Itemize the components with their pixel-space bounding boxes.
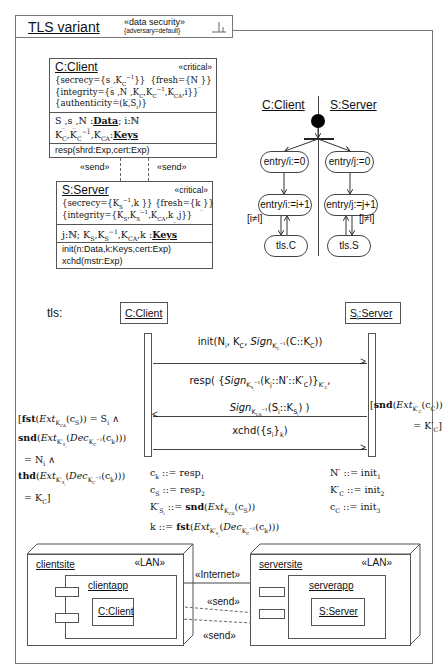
- client-object: C:Client: [92, 598, 134, 626]
- server-node-stereotype: «LAN»: [361, 557, 392, 568]
- component-port: [259, 609, 285, 619]
- server-node-name: serversite: [259, 559, 302, 570]
- client-node-stereotype: «LAN»: [134, 557, 165, 568]
- clientapp-component: clientapp C:Client: [65, 575, 177, 639]
- component-port: [55, 587, 79, 597]
- server-node: serversite «LAN» serverapp S:Server: [250, 554, 411, 646]
- internet-link-label: «Internet»: [195, 569, 240, 580]
- client-node: clientsite «LAN» clientapp C:Client: [27, 554, 184, 646]
- clientapp-name: clientapp: [88, 580, 128, 591]
- component-port: [259, 587, 285, 597]
- deployment-send-label-bottom: «send»: [203, 630, 236, 641]
- client-node-name: clientsite: [36, 559, 75, 570]
- server-object: S:Server: [311, 598, 365, 626]
- serverapp-name: serverapp: [309, 580, 353, 591]
- serverapp-component: serverapp S:Server: [288, 575, 386, 639]
- deployment-send-label-top: «send»: [207, 596, 240, 607]
- component-port: [55, 613, 79, 623]
